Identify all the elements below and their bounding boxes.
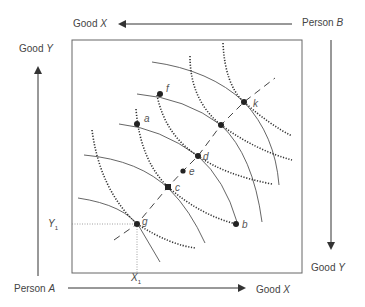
label-d: d <box>203 151 209 162</box>
contract-curve <box>114 78 275 240</box>
point-e <box>180 168 185 173</box>
point-unlabeled <box>218 122 224 128</box>
point-f <box>157 91 163 97</box>
label-c: c <box>175 182 180 193</box>
person-b-indifference-curves <box>92 43 292 248</box>
person-a-indifference-curves <box>78 62 279 262</box>
point-c <box>165 184 171 190</box>
point-k <box>241 99 247 105</box>
label-k: k <box>253 98 259 109</box>
point-d <box>195 153 201 159</box>
edgeworth-box-frame <box>72 40 302 273</box>
label-a: a <box>144 113 150 124</box>
point-a <box>134 121 140 127</box>
label-b: b <box>242 219 248 230</box>
label-g: g <box>142 216 148 227</box>
label-f: f <box>166 83 170 94</box>
point-b <box>233 221 239 227</box>
edgeworth-box-diagram: f a k d e c g b <box>0 0 365 307</box>
point-g <box>134 221 140 227</box>
label-e: e <box>189 166 195 177</box>
